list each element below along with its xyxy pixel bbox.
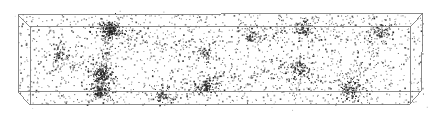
simulation-figure: Cosmological simulation box particle dis…: [0, 0, 439, 121]
particle-scatter-canvas: [0, 0, 439, 121]
